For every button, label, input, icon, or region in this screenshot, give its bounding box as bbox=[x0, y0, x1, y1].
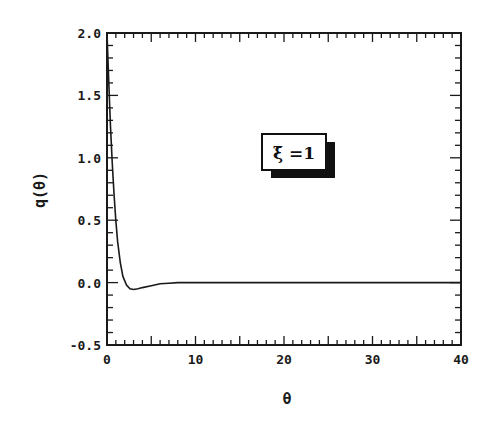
y-tick-label: 0.5 bbox=[78, 213, 101, 228]
x-axis-title: θ bbox=[282, 390, 291, 408]
y-tick-label: 1.0 bbox=[78, 151, 102, 166]
y-tick-label: 0.0 bbox=[78, 276, 102, 291]
x-tick-label: 20 bbox=[276, 352, 292, 367]
y-tick-label: 1.5 bbox=[78, 88, 101, 103]
x-tick-label: 30 bbox=[365, 352, 381, 367]
y-tick-label: -0.5 bbox=[70, 338, 101, 353]
y-tick-labels: -0.50.00.51.01.52.0 bbox=[70, 26, 101, 353]
x-tick-label: 0 bbox=[103, 352, 111, 367]
x-tick-labels: 010203040 bbox=[103, 352, 469, 367]
y-axis-title: q(θ) bbox=[31, 172, 49, 208]
legend-label: ξ̄ =1 bbox=[273, 143, 315, 163]
plot-frame bbox=[107, 33, 461, 345]
line-chart: -0.50.00.51.01.52.0 010203040 ξ̄ =1 θ q(… bbox=[0, 0, 492, 430]
legend-box: ξ̄ =1 bbox=[262, 134, 335, 178]
axis-ticks bbox=[107, 33, 461, 345]
y-tick-label: 2.0 bbox=[78, 26, 102, 41]
x-tick-label: 10 bbox=[188, 352, 204, 367]
x-tick-label: 40 bbox=[453, 352, 469, 367]
